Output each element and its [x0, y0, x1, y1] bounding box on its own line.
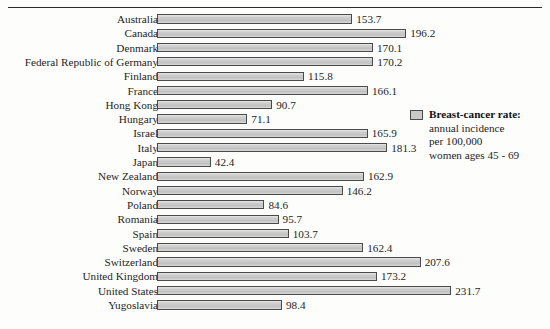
bar-row: Romania95.7 — [0, 212, 550, 226]
bar — [157, 172, 364, 181]
bar-row: New Zealand162.9 — [0, 169, 550, 183]
category-label: Spain — [0, 227, 158, 241]
bar — [157, 215, 279, 224]
bar-row: Federal Republic of Germany170.2 — [0, 55, 550, 69]
category-label: Finland — [0, 69, 158, 83]
bar — [157, 157, 211, 166]
category-label: Israel — [0, 126, 158, 140]
chart-legend: Breast-cancer rate: annual incidence per… — [410, 108, 546, 162]
legend-swatch-icon — [410, 110, 423, 120]
bar — [157, 286, 451, 295]
bar — [157, 186, 343, 195]
bar-row: France166.1 — [0, 84, 550, 98]
category-label: Australia — [0, 12, 158, 26]
bar-value-label: 98.4 — [286, 298, 306, 312]
category-label: United States — [0, 284, 158, 298]
bar-value-label: 146.2 — [347, 184, 372, 198]
category-label: Romania — [0, 212, 158, 226]
bar-row: Poland84.6 — [0, 198, 550, 212]
category-label: Japan — [0, 155, 158, 169]
legend-header: Breast-cancer rate: — [410, 108, 546, 122]
bar-value-label: 170.1 — [377, 41, 402, 55]
bar-row: Sweden162.4 — [0, 241, 550, 255]
bar-row: Spain103.7 — [0, 227, 550, 241]
bar-value-label: 115.8 — [308, 69, 333, 83]
bar-value-label: 207.6 — [425, 255, 450, 269]
category-label: Canada — [0, 26, 158, 40]
bar — [157, 43, 373, 52]
bar — [157, 257, 421, 266]
bar-row: Canada196.2 — [0, 26, 550, 40]
category-label: Sweden — [0, 241, 158, 255]
category-label: New Zealand — [0, 169, 158, 183]
bar — [157, 29, 406, 38]
category-label: Poland — [0, 198, 158, 212]
bar-value-label: 166.1 — [372, 84, 397, 98]
bar — [157, 243, 363, 252]
bar-row: Denmark170.1 — [0, 41, 550, 55]
bar-value-label: 95.7 — [283, 212, 303, 226]
bar-row: Australia153.7 — [0, 12, 550, 26]
bar-value-label: 231.7 — [455, 284, 480, 298]
bar — [157, 229, 289, 238]
legend-line-2: per 100,000 — [429, 135, 546, 149]
category-label: France — [0, 84, 158, 98]
clipped-caption — [0, 0, 550, 3]
bar-row: United States231.7 — [0, 284, 550, 298]
bar — [157, 72, 304, 81]
bar-value-label: 162.4 — [367, 241, 392, 255]
breast-cancer-rate-bar-chart: Australia153.7Canada196.2Denmark170.1Fed… — [0, 0, 550, 329]
category-label: United Kingdom — [0, 269, 158, 283]
bar-value-label: 84.6 — [268, 198, 288, 212]
category-label: Yugoslavia — [0, 298, 158, 312]
bar — [157, 200, 264, 209]
bar-value-label: 103.7 — [293, 227, 318, 241]
category-label: Italy — [0, 141, 158, 155]
legend-line-3: women ages 45 - 69 — [429, 149, 546, 163]
bar — [157, 129, 368, 138]
category-label: Denmark — [0, 41, 158, 55]
legend-line-1: annual incidence — [429, 122, 546, 136]
bar-row: Finland115.8 — [0, 69, 550, 83]
bar — [157, 272, 377, 281]
bar — [157, 14, 352, 23]
bar-value-label: 153.7 — [356, 12, 381, 26]
bar-value-label: 173.2 — [381, 269, 406, 283]
category-label: Hungary — [0, 112, 158, 126]
bar — [157, 100, 272, 109]
bar-row: Yugoslavia98.4 — [0, 298, 550, 312]
bar-row: Switzerland207.6 — [0, 255, 550, 269]
bar — [157, 143, 387, 152]
bar-value-label: 170.2 — [377, 55, 402, 69]
category-label: Federal Republic of Germany — [0, 55, 158, 69]
bar — [157, 114, 247, 123]
bar-row: United Kingdom173.2 — [0, 269, 550, 283]
bar-value-label: 196.2 — [410, 26, 435, 40]
bar — [157, 300, 282, 309]
bar-value-label: 42.4 — [215, 155, 235, 169]
bar-value-label: 165.9 — [372, 126, 397, 140]
category-label: Norway — [0, 184, 158, 198]
bar-value-label: 162.9 — [368, 169, 393, 183]
bar-value-label: 90.7 — [276, 98, 296, 112]
category-label: Hong Kong — [0, 98, 158, 112]
bar — [157, 57, 373, 66]
bar-row: Norway146.2 — [0, 184, 550, 198]
legend-title: Breast-cancer rate: — [429, 108, 521, 122]
bar-value-label: 71.1 — [251, 112, 271, 126]
bar — [157, 86, 368, 95]
top-rule-divider — [8, 7, 542, 8]
category-label: Switzerland — [0, 255, 158, 269]
